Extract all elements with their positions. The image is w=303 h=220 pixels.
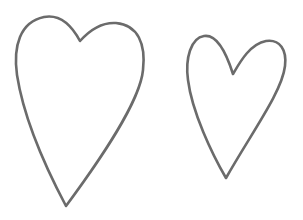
large-heart-outline-icon	[16, 17, 144, 206]
hearts-drawing	[0, 0, 303, 220]
small-heart-outline-icon	[187, 36, 285, 178]
drawing-canvas	[0, 0, 303, 220]
